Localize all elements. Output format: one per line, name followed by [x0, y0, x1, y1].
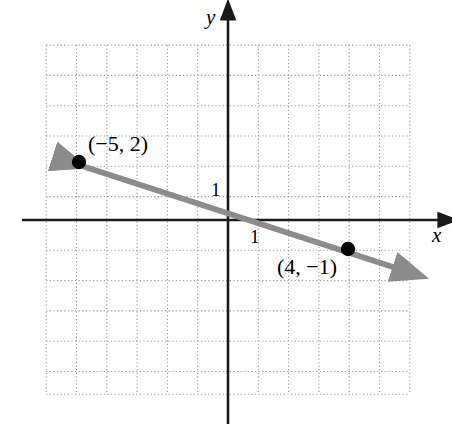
- graph-canvas: [0, 0, 452, 427]
- point-a-label: (−5, 2): [88, 133, 148, 155]
- y-unit-tick-label: 1: [211, 180, 221, 199]
- coordinate-plane-figure: y x 1 1 (−5, 2) (4, −1): [0, 0, 452, 427]
- point-b-label: (4, −1): [277, 256, 337, 278]
- data-point-dot: [72, 155, 86, 169]
- x-axis-name: x: [432, 225, 441, 246]
- data-point-dot: [341, 242, 355, 256]
- y-axis-name: y: [206, 7, 215, 28]
- x-unit-tick-label: 1: [250, 227, 260, 246]
